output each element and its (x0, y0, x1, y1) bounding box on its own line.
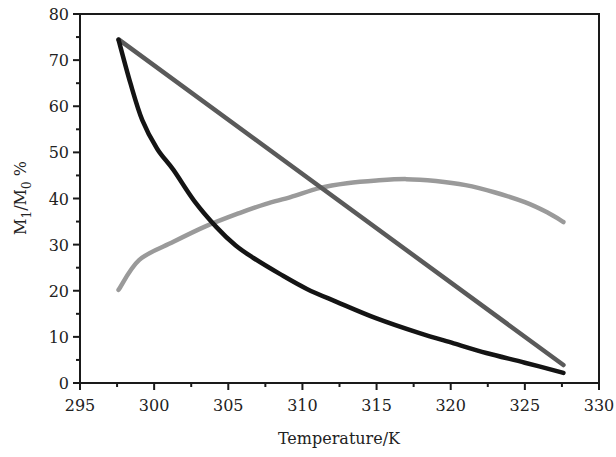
y-axis-title: M1/M0 % (11, 161, 34, 235)
y-tick-label: 80 (49, 5, 69, 24)
x-tick-label: 330 (584, 396, 615, 415)
x-tick-label: 305 (213, 396, 244, 415)
y-tick-label: 50 (49, 143, 69, 162)
y-axis-ticks: 01020304050607080 (49, 5, 80, 393)
line-chart: 01020304050607080 2953003053103153203253… (0, 0, 616, 457)
y-tick-label: 0 (59, 374, 69, 393)
y-tick-label: 70 (49, 51, 69, 70)
y-tick-label: 60 (49, 97, 69, 116)
x-axis-title: Temperature/K (278, 429, 401, 448)
y-tick-label: 20 (49, 282, 69, 301)
y-tick-label: 30 (49, 236, 69, 255)
series-group (119, 39, 564, 372)
x-tick-label: 325 (510, 396, 541, 415)
x-axis-ticks: 295300305310315320325330 (65, 383, 615, 415)
x-tick-label: 310 (287, 396, 318, 415)
x-tick-label: 315 (361, 396, 392, 415)
y-tick-label: 40 (49, 190, 69, 209)
x-tick-label: 300 (139, 396, 170, 415)
series-dark-gray-linear (119, 39, 564, 365)
series-light-gray-arc (119, 179, 564, 290)
x-tick-label: 320 (435, 396, 466, 415)
y-tick-label: 10 (49, 328, 69, 347)
x-tick-label: 295 (65, 396, 96, 415)
